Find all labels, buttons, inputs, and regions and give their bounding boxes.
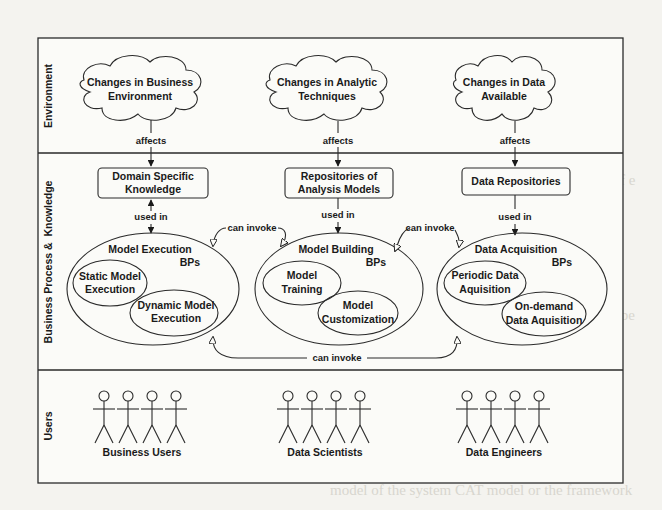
cloud-label-line1: Changes in Data: [463, 76, 545, 88]
edge-label-affects: affects: [500, 135, 531, 146]
subprocess-label-line2: Execution: [85, 283, 135, 295]
user-group-label: Business Users: [103, 446, 182, 458]
box-label-line1: Domain Specific: [112, 170, 194, 182]
box-label-line2: Knowledge: [125, 183, 181, 195]
cloud-label-line2: Available: [481, 90, 527, 102]
process-group-suffix: BPs: [180, 256, 201, 268]
process-group-title: Data Acquisition: [475, 243, 557, 255]
cloud-label-line1: Changes in Business: [87, 76, 193, 88]
box-data-repositories: Data Repositories: [462, 168, 570, 195]
process-group-suffix: BPs: [552, 256, 573, 268]
process-group-title: Model Building: [298, 243, 373, 255]
lane-label-business-process-knowledge: Business Process & Knowledge: [42, 180, 54, 343]
box-repositories-analysis-models: Repositories of Analysis Models: [285, 168, 393, 198]
edge-label-affects: affects: [136, 135, 167, 146]
cloud-label-line1: Changes in Analytic: [277, 76, 377, 88]
subprocess-label-line1: Static Model: [79, 270, 141, 282]
box-label-line1: Data Repositories: [471, 175, 560, 187]
subprocess-label-line2: Execution: [151, 312, 201, 324]
edge-label-can-invoke: can invoke: [227, 222, 276, 233]
process-group-suffix: BPs: [366, 256, 387, 268]
subprocess-label-line2: Aquisition: [459, 283, 510, 295]
cloud-label-line2: Techniques: [298, 90, 356, 102]
svg-text:model of the system CAT model: model of the system CAT model or the fra…: [330, 482, 633, 498]
process-group-title: Model Execution: [108, 243, 191, 255]
user-group-label: Data Engineers: [466, 446, 543, 458]
subprocess-label-line2: Training: [282, 283, 323, 295]
user-group-label: Data Scientists: [287, 446, 362, 458]
lane-label-users: Users: [42, 411, 54, 440]
cloud-label-line2: Environment: [108, 90, 173, 102]
edge-label-used-in: used in: [321, 209, 354, 220]
edge-label-used-in: used in: [134, 211, 167, 222]
edge-label-used-in: used in: [498, 211, 531, 222]
edge-label-can-invoke: can invoke: [405, 222, 454, 233]
subprocess-label-line1: Dynamic Model: [137, 299, 214, 311]
box-label-line2: Analysis Models: [298, 183, 380, 195]
subprocess-label-line2: Customization: [322, 313, 394, 325]
edge-label-can-invoke: can invoke: [312, 352, 361, 363]
subprocess-label-line1: Model: [343, 299, 373, 311]
lane-label-environment: Environment: [42, 63, 54, 128]
architecture-diagram: Ecosystem Considerations tion, Cognition…: [0, 0, 662, 510]
box-label-line1: Repositories of: [301, 170, 378, 182]
subprocess-label-line1: Periodic Data: [451, 269, 518, 281]
box-domain-specific-knowledge: Domain Specific Knowledge: [98, 168, 208, 198]
subprocess-label-line2: Data Aquisition: [506, 314, 583, 326]
subprocess-label-line1: Model: [287, 269, 317, 281]
subprocess-label-line1: On-demand: [515, 300, 573, 312]
edge-label-affects: affects: [323, 135, 354, 146]
